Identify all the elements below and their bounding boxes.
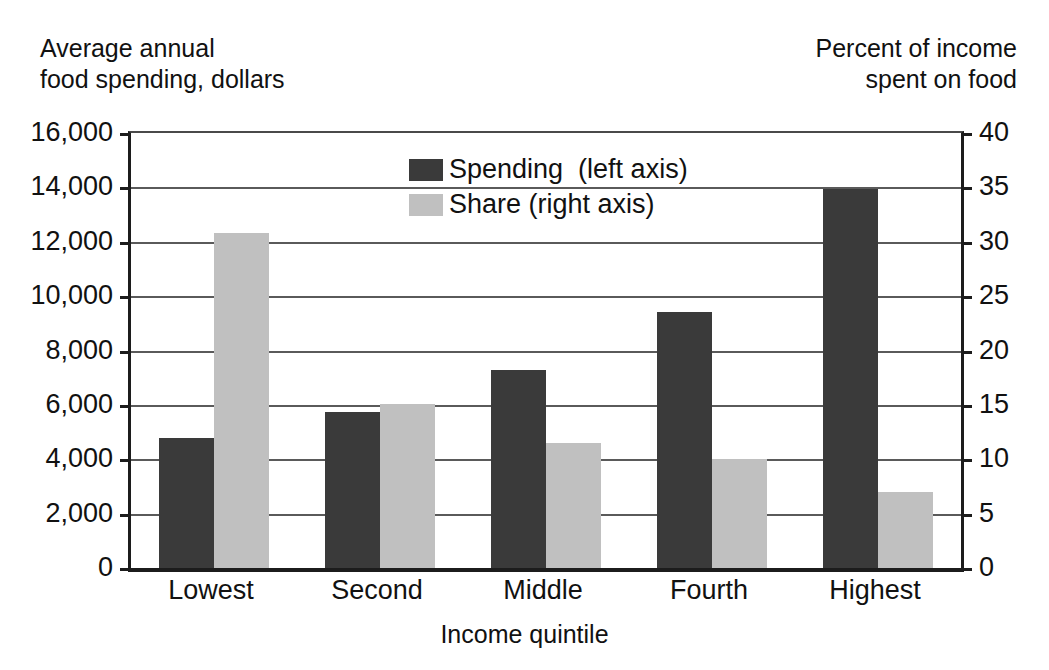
bar-share [878, 492, 933, 568]
right-axis-tick [961, 242, 972, 245]
x-axis-category-label: Lowest [128, 575, 294, 605]
right-axis-tick-label: 5 [979, 500, 994, 527]
right-axis-tick [961, 514, 972, 517]
left-axis-tick [120, 187, 131, 190]
left-axis-tick-label: 16,000 [30, 119, 113, 146]
right-axis-tick [961, 459, 972, 462]
left-axis-tick [120, 514, 131, 517]
legend-item-spending: Spending (left axis) [409, 152, 688, 187]
right-axis-tick-label: 10 [979, 445, 1009, 472]
bar-group [159, 133, 269, 568]
left-axis-tick-label: 2,000 [45, 500, 113, 527]
right-axis-tick-label: 35 [979, 173, 1009, 200]
x-axis-title: Income quintile [0, 620, 1049, 648]
left-axis-tick-label: 0 [98, 554, 113, 581]
right-axis-tick-label: 40 [979, 119, 1009, 146]
left-axis-tick-label: 14,000 [30, 173, 113, 200]
legend-label-spending: Spending (left axis) [449, 156, 688, 183]
bar-spending [657, 312, 712, 568]
bar-spending [325, 412, 380, 568]
x-axis-category-label: Second [294, 575, 460, 605]
bar-share [380, 404, 435, 568]
left-axis-tick [120, 296, 131, 299]
left-axis-tick [120, 351, 131, 354]
bar-group [823, 133, 933, 568]
left-axis-tick [120, 242, 131, 245]
right-axis-tick-label: 30 [979, 228, 1009, 255]
x-axis-category-label: Fourth [626, 575, 792, 605]
left-axis-tick [120, 133, 131, 136]
bar-share [214, 233, 269, 568]
bar-share [712, 459, 767, 568]
left-axis-title: Average annual food spending, dollars [40, 33, 285, 95]
left-axis-tick-label: 4,000 [45, 445, 113, 472]
bar-spending [159, 438, 214, 569]
legend-item-share: Share (right axis) [409, 187, 688, 222]
legend-swatch-share-icon [409, 194, 443, 216]
x-axis-category-label: Middle [460, 575, 626, 605]
right-axis-tick-label: 20 [979, 337, 1009, 364]
right-axis-tick [961, 187, 972, 190]
left-axis-tick [120, 568, 131, 571]
right-axis-tick-label: 0 [979, 554, 994, 581]
bar-spending [823, 189, 878, 568]
legend-label-share: Share (right axis) [449, 191, 655, 218]
left-axis-tick-label: 10,000 [30, 282, 113, 309]
x-axis-category-label: Highest [792, 575, 958, 605]
chart-legend: Spending (left axis) Share (right axis) [409, 152, 688, 222]
right-axis-tick [961, 133, 972, 136]
right-axis-tick [961, 296, 972, 299]
left-axis-tick-label: 8,000 [45, 337, 113, 364]
left-axis-tick [120, 459, 131, 462]
right-axis-tick [961, 405, 972, 408]
legend-swatch-spending-icon [409, 159, 443, 181]
right-axis-tick [961, 351, 972, 354]
bar-chart: Average annual food spending, dollars Pe… [0, 0, 1049, 670]
left-axis-tick-label: 6,000 [45, 391, 113, 418]
right-axis-tick-label: 15 [979, 391, 1009, 418]
right-axis-tick-label: 25 [979, 282, 1009, 309]
right-axis-tick [961, 568, 972, 571]
right-axis-title: Percent of income spent on food [816, 33, 1018, 95]
left-axis-tick [120, 405, 131, 408]
bar-spending [491, 370, 546, 568]
left-axis-tick-label: 12,000 [30, 228, 113, 255]
bar-share [546, 443, 601, 568]
